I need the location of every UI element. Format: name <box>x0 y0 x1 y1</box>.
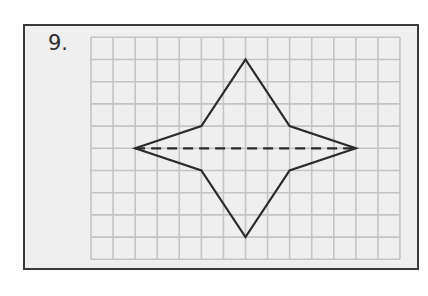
grid-figure <box>0 0 428 296</box>
